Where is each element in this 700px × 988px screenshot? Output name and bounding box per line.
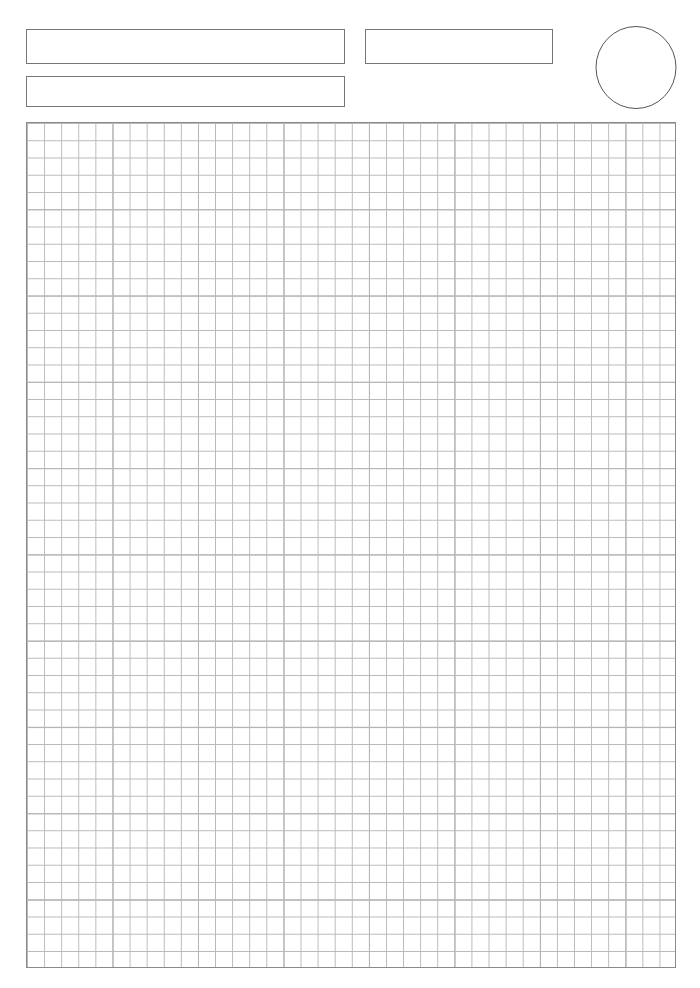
graph-paper-area[interactable] (26, 122, 676, 968)
subtitle-field[interactable] (26, 76, 345, 107)
worksheet-page (0, 0, 700, 988)
stamp-circle[interactable] (595, 26, 677, 109)
title-field[interactable] (26, 29, 345, 64)
meta-field[interactable] (365, 29, 553, 64)
circle-icon (595, 26, 677, 109)
